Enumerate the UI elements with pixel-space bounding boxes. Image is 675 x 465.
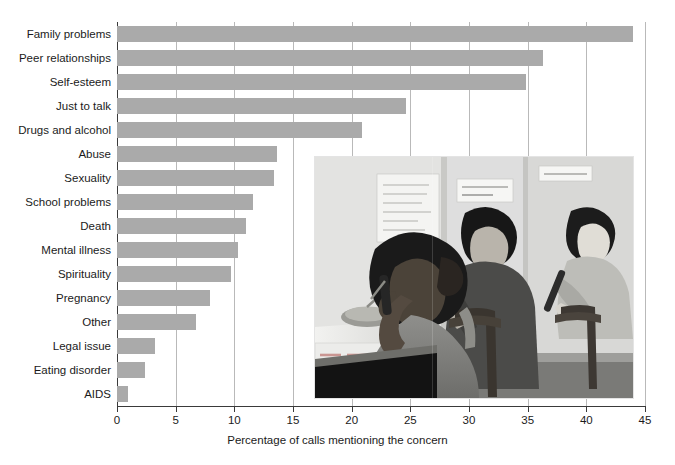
x-tick-mark-40 [586,406,587,412]
bar-row [117,22,645,46]
bar [117,194,253,210]
x-tick-label-0: 0 [114,414,120,426]
bar [117,146,277,162]
category-label: Legal issue [3,334,111,358]
bar [117,338,155,354]
x-tick-mark-45 [645,406,646,412]
category-label: School problems [3,190,111,214]
category-label: Abuse [3,142,111,166]
hotline-photo [315,157,633,398]
bar [117,242,238,258]
x-tick-label-25: 25 [404,414,417,426]
category-label: Pregnancy [3,286,111,310]
x-tick-label-45: 45 [639,414,652,426]
category-label: Drugs and alcohol [3,118,111,142]
x-tick-label-5: 5 [172,414,178,426]
category-label: Spirituality [3,262,111,286]
x-tick-label-35: 35 [521,414,534,426]
bar-row [117,46,645,70]
category-label: Death [3,214,111,238]
x-tick-mark-15 [293,406,294,412]
category-label: Self-esteem [3,70,111,94]
bar-chart-figure: Family problemsPeer relationshipsSelf-es… [0,0,675,465]
category-label: Peer relationships [3,46,111,70]
category-label: AIDS [3,382,111,406]
bar [117,122,362,138]
bar [117,266,231,282]
bar [117,314,196,330]
x-tick-mark-30 [469,406,470,412]
category-label: Family problems [3,22,111,46]
x-tick-mark-35 [528,406,529,412]
bar [117,26,633,42]
category-axis: Family problemsPeer relationshipsSelf-es… [0,22,111,406]
category-label: Just to talk [3,94,111,118]
x-tick-label-40: 40 [580,414,593,426]
category-label: Other [3,310,111,334]
category-label: Eating disorder [3,358,111,382]
bar-row [117,118,645,142]
x-tick-label-30: 30 [463,414,476,426]
x-tick-label-20: 20 [345,414,358,426]
gridline-45 [645,22,646,406]
bar [117,362,145,378]
x-tick-mark-25 [410,406,411,412]
bar [117,170,274,186]
x-tick-label-15: 15 [287,414,300,426]
bar [117,50,543,66]
bar [117,290,210,306]
bar [117,386,128,402]
x-tick-mark-10 [234,406,235,412]
x-tick-label-10: 10 [228,414,241,426]
category-label: Sexuality [3,166,111,190]
category-label: Mental illness [3,238,111,262]
bar [117,74,526,90]
x-tick-mark-20 [352,406,353,412]
x-axis-title: Percentage of calls mentioning the conce… [0,434,675,446]
bar [117,218,246,234]
x-tick-mark-5 [176,406,177,412]
x-axis-line [117,406,646,407]
bar [117,98,406,114]
bar-row [117,94,645,118]
x-tick-mark-0 [117,406,118,412]
bar-row [117,70,645,94]
